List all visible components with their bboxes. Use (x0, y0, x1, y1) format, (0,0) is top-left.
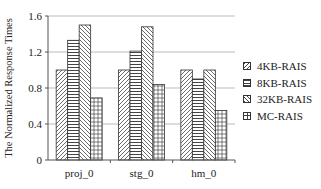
legend-swatch-horizontal-icon (243, 79, 251, 87)
bar-4KB-RAIS-hm_0 (181, 70, 193, 160)
y-tick-label: 0.8 (28, 82, 42, 94)
legend-label: 32KB-RAIS (257, 91, 312, 107)
y-tick-label: 1.6 (28, 10, 42, 22)
bar-MC-RAIS-stg_0 (153, 84, 165, 160)
y-tick-label: 1.2 (28, 46, 42, 58)
legend-swatch-backdiagonal-icon (243, 95, 251, 103)
bar-MC-RAIS-hm_0 (215, 111, 227, 161)
legend-item-mc: MC-RAIS (243, 108, 312, 125)
legend-swatch-grid-icon (243, 112, 251, 120)
x-tick-label: stg_0 (130, 167, 154, 179)
y-tick-label: 0 (37, 154, 43, 166)
legend: 4KB-RAIS 8KB-RAIS 32KB-RAIS MC-RAIS (243, 58, 312, 124)
bar-MC-RAIS-proj_0 (91, 98, 103, 160)
bar-32KB-RAIS-hm_0 (204, 70, 216, 160)
y-tick-label: 0.4 (28, 118, 42, 130)
legend-item-32kb: 32KB-RAIS (243, 91, 312, 108)
legend-item-8kb: 8KB-RAIS (243, 75, 312, 92)
x-tick-label: proj_0 (65, 167, 94, 179)
bar-32KB-RAIS-proj_0 (79, 25, 91, 160)
legend-label: 8KB-RAIS (257, 75, 307, 91)
y-axis-label: The Normalized Response Times (3, 18, 14, 158)
bar-4KB-RAIS-stg_0 (119, 70, 131, 160)
bar-8KB-RAIS-stg_0 (130, 51, 142, 160)
bars (56, 25, 227, 160)
legend-swatch-diagonal-icon (243, 62, 251, 70)
bar-32KB-RAIS-stg_0 (142, 27, 154, 160)
bar-8KB-RAIS-proj_0 (68, 40, 80, 160)
legend-label: MC-RAIS (257, 108, 303, 124)
legend-item-4kb: 4KB-RAIS (243, 58, 312, 75)
bar-4KB-RAIS-proj_0 (56, 70, 68, 160)
x-tick-label: hm_0 (191, 167, 217, 179)
bar-8KB-RAIS-hm_0 (192, 79, 204, 160)
legend-label: 4KB-RAIS (257, 58, 307, 74)
